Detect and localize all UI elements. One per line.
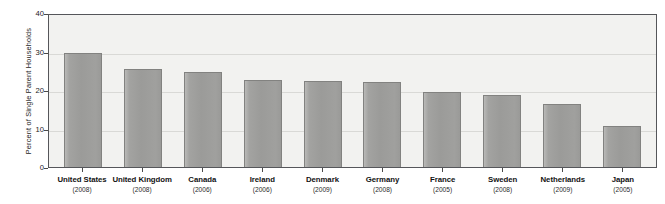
x-axis-label-united-kingdom: United Kingdom(2008)	[112, 175, 172, 201]
x-axis-label-denmark: Denmark(2009)	[292, 175, 352, 201]
x-axis-label-year: (2008)	[112, 185, 172, 194]
x-tick-slot	[52, 168, 112, 173]
y-tick-label: 10	[26, 126, 44, 134]
bar	[64, 53, 102, 167]
bar-slot	[113, 15, 173, 167]
x-tick-slot	[172, 168, 232, 173]
x-axis-label-name: Denmark	[292, 175, 352, 185]
y-tick-mark	[44, 168, 48, 169]
bar	[603, 126, 641, 167]
x-tick-slot	[292, 168, 352, 173]
x-axis-label-name: United States	[52, 175, 112, 185]
y-tick-mark	[44, 14, 48, 15]
bar-slot	[353, 15, 413, 167]
x-tick-mark	[262, 168, 263, 172]
x-tick-slot	[352, 168, 412, 173]
plot-area	[48, 14, 657, 168]
x-axis-label-year: (2008)	[473, 185, 533, 194]
x-axis-label-ireland: Ireland(2006)	[232, 175, 292, 201]
x-axis-label-name: Japan	[593, 175, 653, 185]
y-tick-mark	[44, 130, 48, 131]
x-axis-labels: United States(2008)United Kingdom(2008)C…	[48, 175, 657, 201]
x-axis-label-name: Canada	[172, 175, 232, 185]
x-tick-slot	[232, 168, 292, 173]
bar	[363, 82, 401, 167]
y-tick-label: 30	[26, 49, 44, 57]
bar	[184, 72, 222, 167]
bar-slot	[173, 15, 233, 167]
bar-series	[49, 15, 656, 167]
bar-slot	[532, 15, 592, 167]
x-axis-label-united-states: United States(2008)	[52, 175, 112, 201]
x-tick-mark	[322, 168, 323, 172]
y-axis-ticks: 010203040	[22, 0, 44, 204]
x-tick-slot	[413, 168, 473, 173]
bar-slot	[233, 15, 293, 167]
x-tick-slot	[473, 168, 533, 173]
x-axis-label-sweden: Sweden(2008)	[473, 175, 533, 201]
x-tick-mark	[622, 168, 623, 172]
x-axis-label-canada: Canada(2006)	[172, 175, 232, 201]
y-tick-label: 40	[26, 10, 44, 18]
x-axis-label-name: Netherlands	[533, 175, 593, 185]
x-axis-label-name: France	[413, 175, 473, 185]
x-axis-label-year: (2005)	[413, 185, 473, 194]
x-axis-label-year: (2005)	[593, 185, 653, 194]
x-axis-label-year: (2008)	[352, 185, 412, 194]
x-axis-label-name: Germany	[352, 175, 412, 185]
x-tick-mark	[202, 168, 203, 172]
x-tick-mark	[382, 168, 383, 172]
bar-slot	[412, 15, 472, 167]
x-axis-label-year: (2008)	[52, 185, 112, 194]
x-tick-mark	[442, 168, 443, 172]
x-tick-mark	[82, 168, 83, 172]
x-tick-slot	[533, 168, 593, 173]
x-axis-label-name: Sweden	[473, 175, 533, 185]
bar	[423, 92, 461, 167]
x-axis-label-japan: Japan(2005)	[593, 175, 653, 201]
x-tick-slot	[112, 168, 172, 173]
bar-slot	[592, 15, 652, 167]
x-axis-label-netherlands: Netherlands(2009)	[533, 175, 593, 201]
x-axis-ticks	[48, 168, 657, 173]
bar-slot	[53, 15, 113, 167]
x-tick-mark	[562, 168, 563, 172]
x-axis-label-year: (2009)	[292, 185, 352, 194]
y-tick-mark	[44, 91, 48, 92]
y-tick-label: 20	[26, 87, 44, 95]
x-axis-label-germany: Germany(2008)	[352, 175, 412, 201]
x-axis-label-year: (2006)	[172, 185, 232, 194]
x-tick-slot	[593, 168, 653, 173]
x-axis-label-year: (2006)	[232, 185, 292, 194]
x-axis-label-name: Ireland	[232, 175, 292, 185]
bar-chart: Percent of Single Parent Households 0102…	[0, 0, 665, 204]
y-tick-label: 0	[26, 164, 44, 172]
bar	[483, 95, 521, 167]
y-tick-mark	[44, 53, 48, 54]
x-tick-mark	[142, 168, 143, 172]
bar	[124, 69, 162, 167]
x-axis-label-name: United Kingdom	[112, 175, 172, 185]
x-axis-label-year: (2009)	[533, 185, 593, 194]
bar	[304, 81, 342, 167]
bar	[543, 104, 581, 167]
x-axis-label-france: France(2005)	[413, 175, 473, 201]
bar-slot	[472, 15, 532, 167]
x-tick-mark	[502, 168, 503, 172]
bar	[244, 80, 282, 167]
bar-slot	[293, 15, 353, 167]
